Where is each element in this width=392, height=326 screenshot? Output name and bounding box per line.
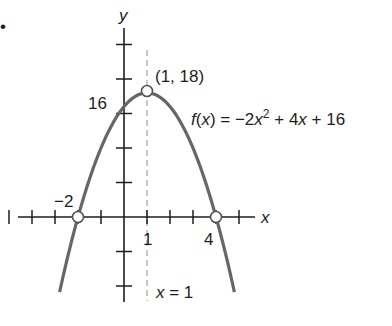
- root-left-label: −2: [54, 192, 73, 211]
- vertex-point: [142, 86, 153, 97]
- parabola-chart: • y x (1, 18) 16 −2 4 1 x = 1 f(x) = −2x…: [0, 0, 392, 326]
- root-left-point: [73, 212, 84, 223]
- x-axis-label: x: [260, 208, 270, 227]
- y-axis-label: y: [118, 6, 129, 25]
- tick-one-label: 1: [143, 230, 152, 249]
- axis-of-symmetry-label: x = 1: [155, 283, 193, 302]
- vertex-label: (1, 18): [155, 67, 204, 86]
- root-right-label: 4: [204, 230, 213, 249]
- y-intercept-label: 16: [88, 94, 107, 113]
- root-right-point: [211, 212, 222, 223]
- bullet: •: [0, 17, 6, 36]
- function-label: f(x) = −2x2 + 4x + 16: [191, 107, 345, 129]
